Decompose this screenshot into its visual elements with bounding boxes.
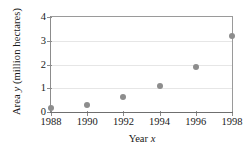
data-point <box>120 94 126 100</box>
y-tick-label-4: 4 <box>41 12 46 23</box>
y-tick-mark-1 <box>47 88 52 89</box>
y-tick-mark-0 <box>47 112 52 113</box>
x-tick-label-1998: 1998 <box>222 117 243 128</box>
data-point <box>157 83 163 89</box>
x-tick-label-1996: 1996 <box>185 117 206 128</box>
x-tick-label-1992: 1992 <box>113 117 134 128</box>
x-tick-label-1990: 1990 <box>77 117 98 128</box>
scatter-chart-figure: Area y (million hectares) 01234198819901… <box>0 0 251 152</box>
x-axis-variable: x <box>151 133 156 144</box>
y-axis-variable: y <box>11 87 22 92</box>
plot-area: 01234198819901992199419961998 <box>50 16 233 113</box>
gridline-y-3 <box>51 41 232 42</box>
data-point <box>84 102 90 108</box>
y-tick-label-2: 2 <box>41 59 46 70</box>
y-tick-label-3: 3 <box>41 36 46 47</box>
x-tick-label-1988: 1988 <box>41 117 62 128</box>
y-axis-title-prefix: Area <box>11 92 22 116</box>
y-tick-mark-3 <box>47 41 52 42</box>
y-tick-mark-2 <box>47 65 52 66</box>
gridline-y-1 <box>51 88 232 89</box>
y-tick-label-1: 1 <box>41 83 46 94</box>
y-axis-title: Area y (million hectares) <box>11 2 22 122</box>
y-tick-mark-4 <box>47 17 52 18</box>
x-tick-label-1994: 1994 <box>149 117 170 128</box>
x-axis-title: Year x <box>50 133 234 144</box>
data-point <box>48 105 54 111</box>
x-axis-title-prefix: Year <box>129 133 151 144</box>
y-axis-title-suffix: (million hectares) <box>11 8 22 87</box>
data-point <box>193 64 199 70</box>
data-point <box>229 33 235 39</box>
gridline-y-2 <box>51 65 232 66</box>
